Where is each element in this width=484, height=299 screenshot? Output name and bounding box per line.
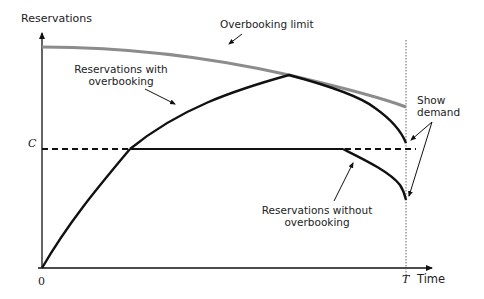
y-axis-label: Reservations	[21, 13, 92, 25]
show-demand-label-line1: Show	[417, 94, 460, 106]
without-overbooking-arrow	[334, 163, 353, 201]
without-overbooking-label-line1: Reservations without	[258, 204, 376, 216]
without-overbooking-label-line2: overbooking	[258, 216, 376, 228]
capacity-label: C	[28, 138, 36, 150]
show-demand-arrow-lower	[409, 122, 432, 196]
x-axis-label: Time	[417, 273, 445, 285]
origin-label: 0	[38, 276, 45, 288]
initial-booking-curve	[42, 149, 130, 268]
with-overbooking-label-line1: Reservations with	[72, 63, 170, 75]
show-demand-label-line2: demand	[417, 106, 460, 118]
without-overbooking-label: Reservations without overbooking	[258, 204, 376, 228]
diagram-canvas	[0, 0, 484, 299]
overbooking-limit-arrow	[229, 34, 242, 44]
end-time-label: T	[402, 274, 409, 286]
with-overbooking-label-line2: overbooking	[72, 75, 170, 87]
reservations-without-overbooking-curve	[343, 149, 406, 200]
overbooking-limit-label: Overbooking limit	[220, 18, 314, 30]
with-overbooking-arrow	[145, 89, 175, 104]
with-overbooking-label: Reservations with overbooking	[72, 63, 170, 87]
reservations-with-overbooking-curve	[130, 75, 406, 149]
show-demand-label: Show demand	[417, 94, 460, 118]
